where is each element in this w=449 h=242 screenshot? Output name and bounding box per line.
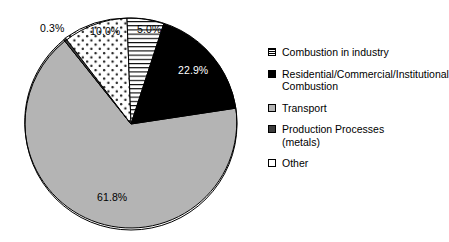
legend-item-residential-commercial[interactable]: Residential/Commercial/Institutional Com…	[268, 68, 411, 93]
gray-swatch-icon	[268, 104, 276, 112]
pie-label-transport: 61.8%	[97, 191, 127, 203]
hlines-swatch-icon	[268, 48, 276, 56]
chart-legend: Combustion in industry Residential/Comme…	[268, 46, 411, 179]
legend-label-production-processes: Production Processes (metals)	[282, 123, 411, 148]
pie-label-residential-commercial: 22.9%	[178, 64, 208, 76]
pie-chart-plot-area: 0.3% 10.0% 5.0% 22.9% 61.8%	[0, 0, 262, 242]
legend-item-production-processes[interactable]: Production Processes (metals)	[268, 123, 411, 148]
white-swatch-icon	[268, 159, 276, 167]
legend-item-other[interactable]: Other	[268, 157, 411, 170]
pie-label-other: 10.0%	[90, 25, 120, 37]
pie-chart-svg	[0, 0, 262, 242]
legend-item-transport[interactable]: Transport	[268, 102, 411, 115]
legend-label-transport: Transport	[282, 102, 327, 115]
legend-label-combustion-in-industry: Combustion in industry	[282, 46, 389, 59]
pie-label-combustion-in-industry: 5.0%	[137, 23, 161, 35]
pie-label-production-processes: 0.3%	[40, 22, 64, 34]
legend-label-residential-commercial: Residential/Commercial/Institutional Com…	[282, 68, 449, 93]
dark-swatch-icon	[268, 125, 276, 133]
legend-item-combustion-in-industry[interactable]: Combustion in industry	[268, 46, 411, 59]
black-swatch-icon	[268, 70, 276, 78]
legend-label-other: Other	[282, 157, 308, 170]
